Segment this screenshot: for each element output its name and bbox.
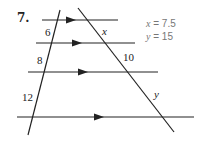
- segment-label-8: 8: [37, 54, 43, 66]
- segment-label-x: x: [101, 25, 107, 37]
- arrow-icon: [66, 17, 76, 24]
- parallel-arrow-icons: [66, 17, 104, 121]
- problem-number: 7.: [17, 11, 30, 25]
- segment-label-y: y: [153, 88, 159, 100]
- segment-label-10: 10: [123, 51, 135, 63]
- segment-label-6: 6: [45, 26, 51, 38]
- arrow-icon: [72, 40, 82, 47]
- segment-label-12: 12: [22, 91, 33, 103]
- answer-y: y = 15: [146, 31, 173, 42]
- arrow-icon: [94, 114, 104, 121]
- arrow-icon: [78, 69, 88, 76]
- answer-x: x = 7.5: [146, 18, 176, 29]
